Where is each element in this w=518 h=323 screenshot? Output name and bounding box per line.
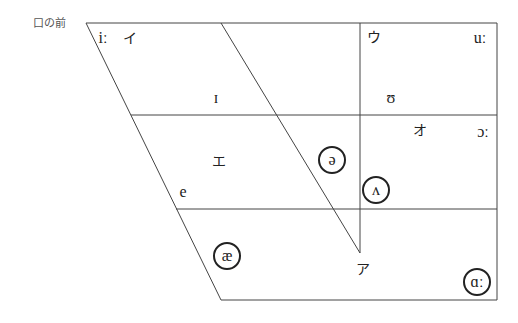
vowel-short-u: ʊ xyxy=(387,90,396,106)
kana-i: イ xyxy=(123,31,137,45)
vowel-e: e xyxy=(179,184,186,200)
kana-o: オ xyxy=(413,123,427,137)
vowel-trapezoid-diagram xyxy=(0,0,518,323)
kana-e: エ xyxy=(212,154,226,168)
vowel-short-i: ɪ xyxy=(214,90,218,106)
vowel-long-i: iː xyxy=(99,30,108,46)
front-of-mouth-label: 口の前 xyxy=(33,14,66,30)
vowel-long-open-o: ɔː xyxy=(477,124,489,140)
vowel-chart: 口の前 iːイウuːɪʊオɔːエəeʌæアɑː xyxy=(0,0,518,323)
vowel-long-u: uː xyxy=(474,30,486,46)
kana-a: ア xyxy=(356,262,370,276)
vowel-ash: æ xyxy=(213,242,241,270)
vowel-schwa: ə xyxy=(318,146,346,174)
kana-u: ウ xyxy=(367,30,381,44)
trapezoid-outline xyxy=(86,23,497,300)
vowel-long-a: ɑː xyxy=(463,268,491,296)
vowel-wedge: ʌ xyxy=(362,176,390,204)
central-diagonal xyxy=(221,23,360,253)
grid-lines xyxy=(131,23,497,253)
